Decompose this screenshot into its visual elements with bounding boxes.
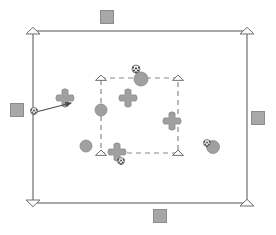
ball-4-spot-4 <box>203 141 205 143</box>
corner-markers-group <box>26 27 254 206</box>
circle-2 <box>95 104 107 116</box>
ball-3-spot-1 <box>118 161 120 163</box>
ball-4-spot-3 <box>206 145 208 147</box>
ball-3 <box>117 158 124 165</box>
ball-1 <box>132 65 140 73</box>
ball-2-spot-0 <box>33 110 35 112</box>
flowers-group <box>56 89 181 161</box>
ball-1-spot-2 <box>137 70 139 72</box>
squares-group <box>11 11 265 223</box>
ball-3-spot-0 <box>120 160 122 162</box>
ball-1-spot-0 <box>135 67 137 69</box>
ball-4 <box>203 140 210 147</box>
ball-2-spot-2 <box>35 111 37 113</box>
diagram-canvas <box>0 0 276 235</box>
ball-2-spot-1 <box>31 111 33 113</box>
outer-boundary-group <box>33 31 247 203</box>
inner-boundary-group <box>101 78 178 153</box>
scene-svg <box>0 0 276 235</box>
ball-1-spot-1 <box>133 70 135 72</box>
ball-3-spot-3 <box>120 163 122 165</box>
outer-rectangle-path <box>33 31 247 203</box>
circle-3 <box>80 140 92 152</box>
ball-2 <box>30 108 37 115</box>
ball-4-spot-0 <box>206 142 208 144</box>
ball-1-spot-4 <box>132 67 134 69</box>
arrow-group <box>36 103 71 112</box>
ball-4-spot-2 <box>208 143 210 145</box>
ball-2-spot-5 <box>36 109 38 111</box>
ball-3-spot-4 <box>117 159 119 161</box>
ball-1-spot-5 <box>138 67 140 69</box>
flower-2 <box>119 89 137 107</box>
ball-4-spot-1 <box>204 143 206 145</box>
ball-3-spot-2 <box>122 161 124 163</box>
inner-rectangle-path <box>101 78 178 153</box>
ball-1-spot-3 <box>135 71 137 73</box>
circle-1 <box>134 72 148 86</box>
ball-4-spot-5 <box>209 141 211 143</box>
square-right <box>252 112 265 125</box>
ball-2-spot-3 <box>33 113 35 115</box>
velocity-arrow <box>36 103 71 112</box>
square-top <box>101 11 114 24</box>
ball-2-spot-4 <box>30 109 32 111</box>
square-bottom <box>154 210 167 223</box>
ball-3-spot-5 <box>123 159 125 161</box>
square-left <box>11 104 24 117</box>
